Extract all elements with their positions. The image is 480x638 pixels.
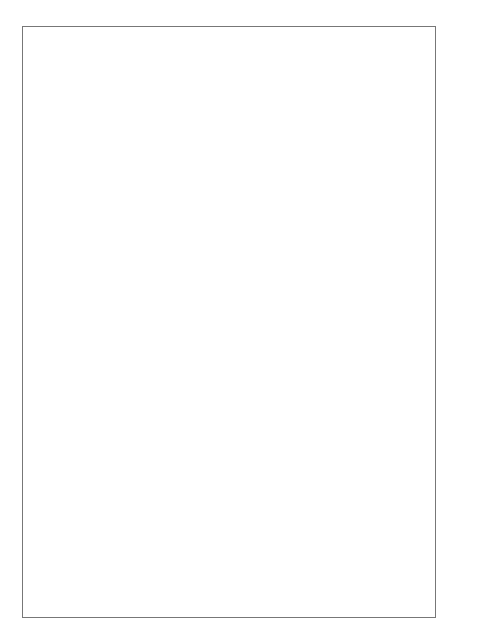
season-band xyxy=(66,310,392,354)
climate-line-chart xyxy=(0,0,480,310)
